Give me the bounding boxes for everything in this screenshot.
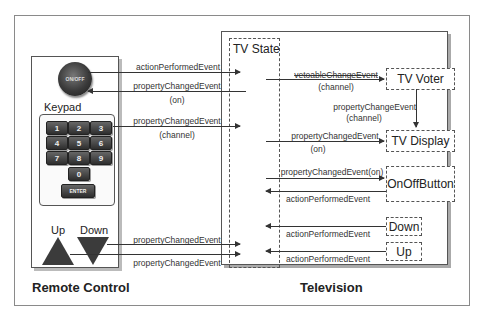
key-2: 2 <box>68 121 90 135</box>
key-0: 0 <box>68 167 90 181</box>
arrow-tvstate-to-display <box>266 141 384 142</box>
key-enter: ENTER <box>61 184 95 198</box>
key-7: 7 <box>46 151 68 165</box>
television-title: Television <box>300 280 363 295</box>
arrow-head-down-icon <box>413 122 419 128</box>
arrow-up-component-to-tvstate <box>266 251 386 252</box>
edge-label-display-property-sub: (on) <box>288 144 348 154</box>
edge-label-onoff-property: propertyChangedEvent <box>124 81 230 91</box>
down-component-label: Down <box>389 220 420 234</box>
key-8: 8 <box>68 151 90 165</box>
tv-display-box: TV Display <box>386 130 455 152</box>
down-button-label: Down <box>80 224 108 236</box>
onoffbutton-label: OnOffButton <box>387 177 454 191</box>
key-1: 1 <box>46 121 68 135</box>
edge-label-voter-to-display-sub: (channel) <box>326 113 402 123</box>
arrow-tvstate-to-voter <box>266 79 384 80</box>
edge-label-onoff-component-action: actionPerformedEvent <box>280 194 376 204</box>
edge-label-vetoable-sub: (channel) <box>290 82 382 92</box>
edge-label-voter-to-display: propertyChangeEvent <box>326 102 416 112</box>
arrow-onoffbutton-to-tvstate <box>266 191 386 192</box>
up-triangle-icon <box>42 237 74 265</box>
onoff-label: ON/OFF <box>66 76 85 82</box>
arrow-down-to-tvstate <box>107 244 240 245</box>
key-9: 9 <box>90 151 112 165</box>
key-6: 6 <box>90 136 112 150</box>
up-button-label: Up <box>51 224 65 236</box>
arrow-tvstate-to-onoff <box>88 91 246 92</box>
edge-label-keypad-property-sub: (channel) <box>124 130 230 140</box>
arrow-down-component-to-tvstate <box>266 226 386 227</box>
arrow-up-to-tvstate <box>70 254 240 255</box>
down-component-box: Down <box>386 217 422 236</box>
tv-display-label: TV Display <box>391 134 449 148</box>
up-component-label: Up <box>396 245 411 259</box>
keypad-label: Keypad <box>44 101 81 113</box>
arrow-tvstate-to-onoffbutton <box>266 178 384 179</box>
edge-label-display-property: propertyChangedEvent <box>288 131 382 141</box>
edge-label-up-property: propertyChangedEvent <box>124 258 230 268</box>
down-triangle-icon <box>77 237 109 265</box>
arrow-keypad-to-tvstate <box>113 126 240 127</box>
edge-label-up-component-action: actionPerformedEvent <box>280 254 376 264</box>
edge-label-onoff-action: actionPerformedEvent <box>128 62 228 72</box>
tv-voter-label: TV Voter <box>397 72 444 86</box>
key-5: 5 <box>68 136 90 150</box>
onoffbutton-box: OnOffButton <box>386 166 455 202</box>
edge-label-onoff-component-property: propertyChangedEvent(on) <box>280 167 384 177</box>
tv-voter-box: TV Voter <box>386 68 455 90</box>
edge-label-down-component-action: actionPerformedEvent <box>280 229 376 239</box>
up-component-box: Up <box>386 242 422 261</box>
remote-control-title: Remote Control <box>32 280 130 295</box>
arrow-onoff-to-tvstate <box>88 72 240 73</box>
tv-state-label: TV State <box>233 42 280 56</box>
edge-label-onoff-property-sub: (on) <box>124 95 230 105</box>
key-3: 3 <box>90 121 112 135</box>
keypad: 1 2 3 4 5 6 7 8 9 0 ENTER <box>39 114 115 206</box>
edge-label-keypad-property: propertyChangedEvent <box>124 116 230 126</box>
key-4: 4 <box>46 136 68 150</box>
